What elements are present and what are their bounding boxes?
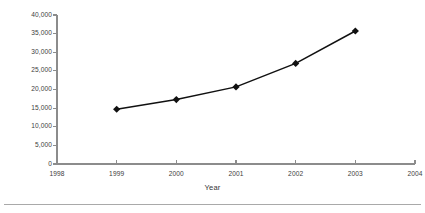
data-series xyxy=(113,27,359,112)
axis-ticks xyxy=(53,15,415,164)
data-point-marker xyxy=(113,106,120,113)
x-axis-tick-label: 2004 xyxy=(395,171,425,178)
line-chart: No. Vehicles Registered 05,00010,00015,0… xyxy=(0,0,425,213)
data-point-marker xyxy=(292,60,299,67)
plot-area xyxy=(0,0,425,213)
x-axis-tick-label: 1999 xyxy=(97,171,137,178)
x-axis-title: Year xyxy=(0,183,425,192)
data-point-marker xyxy=(173,96,180,103)
x-axis-tick-label: 2000 xyxy=(156,171,196,178)
x-axis-tick-label: 2001 xyxy=(216,171,256,178)
x-axis-tick-label: 1998 xyxy=(37,171,77,178)
x-axis-tick-label: 2002 xyxy=(276,171,316,178)
data-point-marker xyxy=(232,83,239,90)
footer-divider xyxy=(4,204,421,205)
x-axis-tick-label: 2003 xyxy=(335,171,375,178)
series-line xyxy=(117,31,356,109)
data-point-marker xyxy=(352,27,359,34)
